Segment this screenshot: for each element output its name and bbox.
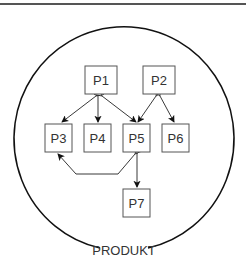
- node-p6[interactable]: P6: [162, 124, 189, 152]
- node-label: P7: [129, 196, 145, 211]
- container-label: PRODUKT: [92, 243, 156, 258]
- node-p7[interactable]: P7: [123, 189, 150, 217]
- node-label: P3: [51, 131, 67, 146]
- node-p4[interactable]: P4: [84, 124, 111, 152]
- edge-p1-p5: [102, 96, 136, 122]
- node-label: P5: [129, 131, 145, 146]
- node-p1[interactable]: P1: [85, 66, 117, 94]
- node-label: P1: [93, 73, 109, 88]
- edge-p2-p6: [160, 96, 174, 122]
- node-label: P6: [168, 131, 184, 146]
- node-p5[interactable]: P5: [123, 124, 150, 152]
- edge-p1-p3: [62, 96, 96, 122]
- edge-p2-p5: [138, 96, 156, 122]
- edges: [58, 96, 174, 187]
- node-label: P2: [151, 73, 167, 88]
- edge-p5-p3: [58, 154, 135, 174]
- node-p2[interactable]: P2: [143, 66, 175, 94]
- node-label: P4: [90, 131, 106, 146]
- node-p3[interactable]: P3: [45, 124, 72, 152]
- product-diagram: P1 P2 P3 P4 P5 P6 P7 PRODUKT: [0, 0, 246, 272]
